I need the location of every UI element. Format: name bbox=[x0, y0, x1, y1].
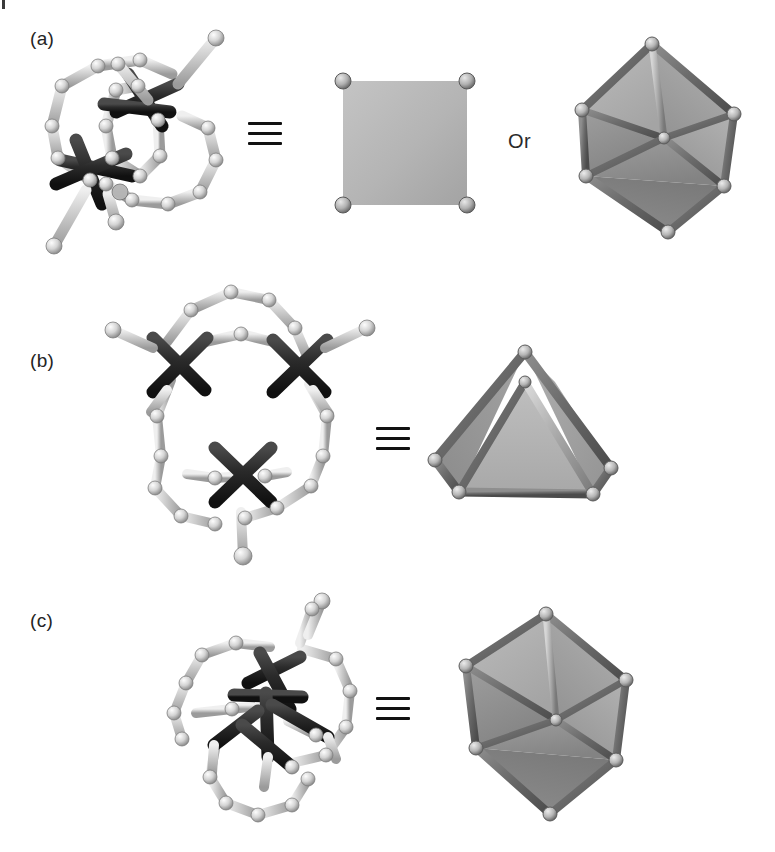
or-connector-text: Or bbox=[508, 130, 531, 153]
molecular-structure-b bbox=[95, 280, 385, 565]
panel-b-label: (b) bbox=[30, 350, 54, 372]
molecular-structure-a bbox=[20, 8, 260, 258]
scientific-figure: (a) bbox=[0, 0, 775, 852]
panel-c-label: (c) bbox=[30, 610, 53, 632]
equivalence-symbol-c bbox=[376, 697, 410, 723]
octahedron-polyhedron-c bbox=[440, 600, 680, 830]
equivalence-symbol-b bbox=[376, 427, 410, 453]
panel-c: (c) bbox=[0, 565, 775, 852]
equivalence-symbol-a bbox=[248, 122, 282, 148]
panel-a: (a) bbox=[0, 0, 775, 280]
panel-b: (b) bbox=[0, 280, 775, 565]
square-polyhedron-a bbox=[330, 68, 480, 218]
molecular-structure-c bbox=[140, 587, 390, 837]
octahedron-polyhedron-a bbox=[572, 18, 772, 248]
tetrahedron-polyhedron-b bbox=[425, 340, 665, 530]
